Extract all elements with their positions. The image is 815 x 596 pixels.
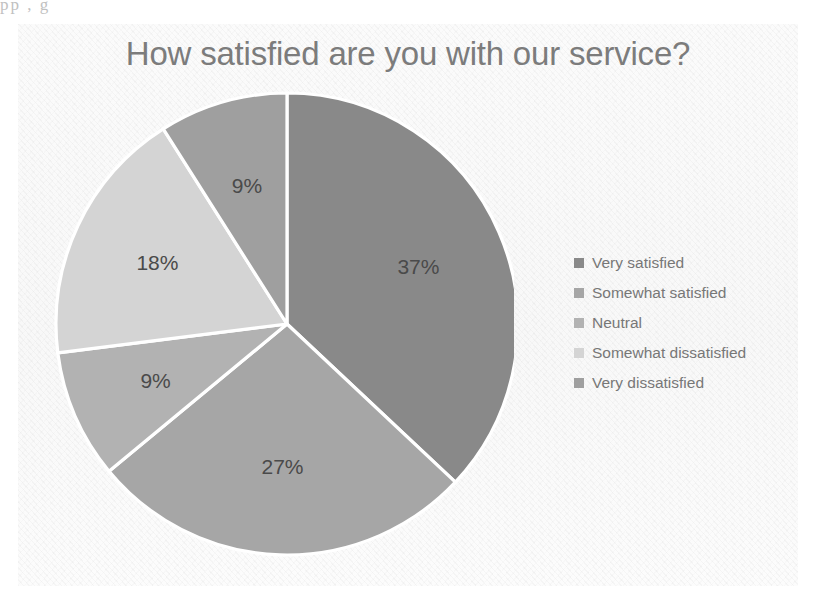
chart-legend: Very satisfiedSomewhat satisfiedNeutralS… (574, 248, 789, 398)
legend-swatch-icon (574, 348, 584, 358)
legend-item[interactable]: Somewhat dissatisfied (574, 338, 789, 368)
scan-artifact-text: pp , g (0, 0, 815, 16)
legend-item-label: Very satisfied (592, 254, 684, 272)
chart-title: How satisfied are you with our service? (18, 35, 798, 73)
legend-item-label: Somewhat satisfied (592, 284, 726, 302)
pie-chart-svg: 37%27%9%18%9% (34, 86, 514, 566)
legend-item[interactable]: Very dissatisfied (574, 368, 789, 398)
pie-slice-group (56, 93, 514, 555)
legend-swatch-icon (574, 288, 584, 298)
chart-panel: How satisfied are you with our service? … (18, 24, 798, 586)
legend-item[interactable]: Very satisfied (574, 248, 789, 278)
pie-slice-value-label: 27% (261, 455, 303, 478)
pie-slice-value-label: 9% (232, 174, 262, 197)
pie-slice-value-label: 37% (397, 255, 439, 278)
legend-item[interactable]: Somewhat satisfied (574, 278, 789, 308)
pie-slice-value-label: 18% (136, 251, 178, 274)
pie-chart: 37%27%9%18%9% (34, 86, 514, 566)
scanned-page: pp , g How satisfied are you with our se… (0, 0, 815, 596)
legend-item-label: Somewhat dissatisfied (592, 344, 746, 362)
legend-swatch-icon (574, 318, 584, 328)
legend-swatch-icon (574, 258, 584, 268)
pie-slice-value-label: 9% (140, 369, 170, 392)
legend-item[interactable]: Neutral (574, 308, 789, 338)
legend-item-label: Neutral (592, 314, 642, 332)
legend-item-label: Very dissatisfied (592, 374, 704, 392)
legend-swatch-icon (574, 378, 584, 388)
